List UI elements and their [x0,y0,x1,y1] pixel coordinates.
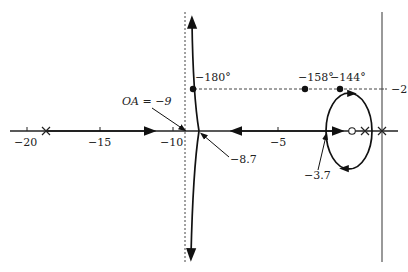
tick-label-minus5: −5 [270,137,286,148]
point-144 [337,86,343,92]
zero-marker [349,128,356,135]
breakaway-right-label: −3.7 [304,170,331,181]
breakaway-left-label: −8.7 [230,154,257,165]
oa-label: OA = −9 [122,96,171,107]
oa-leader-arrow [152,108,183,129]
imag-tick-label: −2 [391,84,407,95]
angle-158-label: −158° [298,72,334,83]
point-180 [190,86,196,92]
locus-branch-down [191,131,199,255]
breakaway-right-leader [318,136,326,170]
breakaway-left-leader [203,135,229,157]
tick-label-minus10: −10 [160,137,183,148]
tick-label-minus20: −20 [14,137,37,148]
angle-180-label: −180° [195,72,231,83]
root-locus-plot [0,0,408,272]
point-158 [302,86,308,92]
tick-label-minus15: −15 [88,137,111,148]
angle-144-label: −144° [330,72,366,83]
oa-text: OA = −9 [122,95,171,108]
